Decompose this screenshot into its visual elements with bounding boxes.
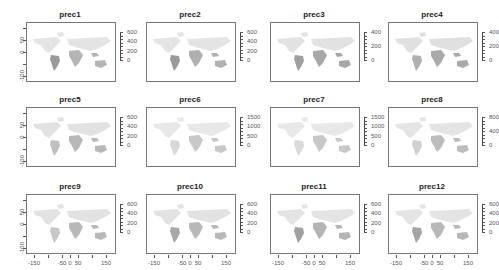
legend-tick bbox=[482, 222, 485, 223]
x-tick-label: 150 bbox=[101, 260, 111, 266]
legend-label: 400 bbox=[489, 29, 499, 35]
x-tick bbox=[292, 255, 293, 258]
legend-tick bbox=[240, 142, 243, 143]
y-axis: 500-100 bbox=[20, 107, 26, 165]
legend-tick bbox=[482, 124, 485, 125]
x-tick bbox=[322, 255, 323, 258]
x-tick bbox=[70, 255, 71, 258]
x-tick-label: 50 bbox=[195, 260, 202, 266]
legend-tick bbox=[120, 135, 123, 136]
legend-tick bbox=[120, 142, 123, 143]
world-map-raster bbox=[271, 108, 359, 166]
legend-tick bbox=[240, 57, 243, 58]
legend-tick bbox=[120, 53, 123, 54]
y-tick-label: 50 bbox=[19, 37, 25, 44]
world-map-raster bbox=[389, 108, 477, 166]
legend-tick bbox=[482, 135, 485, 136]
plot-area bbox=[26, 22, 116, 82]
x-tick bbox=[454, 255, 455, 258]
legend-tick bbox=[240, 43, 243, 44]
x-tick-label: -50 bbox=[420, 260, 429, 266]
plot-area bbox=[146, 22, 236, 82]
legend-tick bbox=[240, 225, 243, 226]
legend-tick bbox=[240, 208, 243, 209]
legend-tick bbox=[482, 211, 485, 212]
legend-label: 0 bbox=[489, 142, 492, 148]
panel-title: prec10 bbox=[146, 182, 234, 191]
panel-title: prec12 bbox=[388, 182, 476, 191]
x-tick bbox=[198, 255, 199, 258]
legend-tick bbox=[240, 128, 243, 129]
y-tick-label: 0 bbox=[19, 50, 25, 53]
world-map-raster bbox=[389, 23, 477, 81]
x-tick bbox=[410, 255, 411, 258]
x-tick-label: 50 bbox=[75, 260, 82, 266]
x-tick bbox=[350, 255, 351, 258]
legend-tick bbox=[482, 208, 485, 209]
x-tick-label: -150 bbox=[272, 260, 284, 266]
legend-tick bbox=[240, 53, 243, 54]
legend-tick bbox=[482, 215, 485, 216]
color-legend: 6004002000 bbox=[240, 32, 244, 60]
x-tick bbox=[278, 255, 279, 258]
legend-tick bbox=[120, 60, 123, 61]
legend-tick bbox=[482, 60, 485, 61]
x-tick-label: 0 bbox=[188, 260, 191, 266]
panel-title: prec4 bbox=[388, 10, 476, 19]
legend-tick bbox=[120, 117, 123, 118]
legend-tick bbox=[482, 229, 485, 230]
legend-tick bbox=[120, 138, 123, 139]
legend-tick bbox=[120, 43, 123, 44]
legend-tick bbox=[482, 138, 485, 139]
x-axis: -150-50050150 bbox=[146, 255, 234, 269]
legend-tick bbox=[240, 229, 243, 230]
legend-tick bbox=[240, 36, 243, 37]
plot-area bbox=[270, 194, 360, 254]
x-tick-label: -50 bbox=[302, 260, 311, 266]
y-axis: 500-100 bbox=[20, 22, 26, 80]
legend-tick bbox=[482, 117, 485, 118]
legend-tick bbox=[120, 232, 123, 233]
x-tick bbox=[336, 255, 337, 258]
x-tick bbox=[396, 255, 397, 258]
legend-tick bbox=[120, 124, 123, 125]
map-panel-prec2: prec2 6004002000 bbox=[124, 0, 248, 88]
legend-label: 200 bbox=[489, 220, 499, 226]
world-map-raster bbox=[389, 195, 477, 253]
legend-tick bbox=[482, 53, 485, 54]
legend-tick bbox=[120, 131, 123, 132]
legend-tick bbox=[240, 215, 243, 216]
legend-label: 0 bbox=[489, 57, 492, 63]
world-map-raster bbox=[147, 195, 235, 253]
y-tick bbox=[23, 28, 26, 29]
x-tick bbox=[92, 255, 93, 258]
y-tick-label: -100 bbox=[19, 155, 25, 167]
x-tick bbox=[306, 255, 307, 258]
legend-tick bbox=[240, 232, 243, 233]
plot-area bbox=[388, 22, 478, 82]
panel-title: prec2 bbox=[146, 10, 234, 19]
legend-tick bbox=[482, 43, 485, 44]
y-tick-label: -100 bbox=[19, 242, 25, 254]
plot-area bbox=[270, 22, 360, 82]
x-tick bbox=[424, 255, 425, 258]
legend-tick bbox=[240, 124, 243, 125]
legend-label: 400 bbox=[489, 128, 499, 134]
x-tick-label: 150 bbox=[221, 260, 231, 266]
legend-tick bbox=[482, 145, 485, 146]
x-tick-label: -50 bbox=[178, 260, 187, 266]
map-panel-prec3: prec3 4002000 bbox=[248, 0, 372, 88]
legend-tick bbox=[120, 145, 123, 146]
y-axis: 500-100 bbox=[20, 194, 26, 252]
color-legend: 4002000 bbox=[482, 32, 486, 60]
x-tick-label: 0 bbox=[68, 260, 71, 266]
x-tick bbox=[168, 255, 169, 258]
world-map-raster bbox=[27, 108, 115, 166]
panel-title: prec8 bbox=[388, 95, 476, 104]
legend-label: 600 bbox=[489, 201, 499, 207]
map-panel-prec5: prec5 6004002000500-100 bbox=[4, 85, 128, 173]
x-tick bbox=[190, 255, 191, 258]
map-panel-prec6: prec6 150010005000 bbox=[124, 85, 248, 173]
panel-title: prec9 bbox=[26, 182, 114, 191]
x-tick bbox=[62, 255, 63, 258]
